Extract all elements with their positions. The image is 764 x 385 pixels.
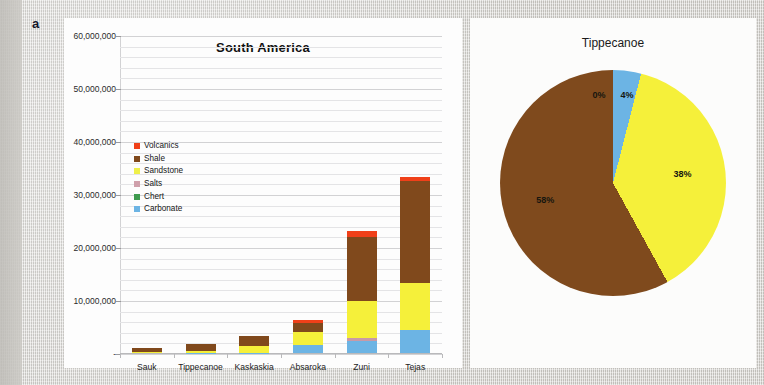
x-axis-tick-mark bbox=[335, 354, 336, 358]
gridline-major bbox=[120, 301, 442, 302]
bar-segment-carbonate bbox=[347, 341, 377, 353]
bar-segment-sandstone bbox=[239, 346, 269, 353]
bar-segment-carbonate bbox=[400, 330, 430, 353]
bar-segment-salts bbox=[347, 338, 377, 342]
gridline-minor bbox=[120, 343, 442, 344]
x-axis-tick-mark bbox=[388, 354, 389, 358]
bar-segment-sandstone bbox=[400, 283, 430, 331]
gridline-minor bbox=[120, 78, 442, 79]
bar-segment-volcanics bbox=[347, 231, 377, 237]
gridline-minor bbox=[120, 131, 442, 132]
legend-item-label: Sandstone bbox=[144, 167, 183, 175]
panel-a-bar-chart: South America -10,000,00020,000,00030,00… bbox=[64, 18, 462, 368]
legend-swatch-icon bbox=[134, 168, 140, 174]
bar-segment-shale bbox=[293, 323, 323, 331]
legend-item-volcanics[interactable]: Volcanics bbox=[134, 140, 183, 153]
gridline-minor bbox=[120, 290, 442, 291]
gridline-minor bbox=[120, 322, 442, 323]
bar-segment-sandstone bbox=[186, 351, 216, 353]
bar-segment-volcanics bbox=[400, 177, 430, 181]
bar-sauk bbox=[132, 348, 162, 353]
legend-item-label: Volcanics bbox=[144, 142, 179, 150]
legend-item-sandstone[interactable]: Sandstone bbox=[134, 165, 183, 178]
x-axis-label-sauk: Sauk bbox=[137, 362, 157, 372]
bar-kaskaskia bbox=[239, 336, 269, 353]
gridline-major bbox=[120, 36, 442, 37]
x-axis-tick-mark bbox=[281, 354, 282, 358]
y-axis-tick-mark bbox=[116, 195, 121, 196]
gridline-major bbox=[120, 248, 442, 249]
x-axis-label-kaskaskia: Kaskaskia bbox=[235, 362, 274, 372]
gridline-minor bbox=[120, 237, 442, 238]
y-axis-tick-mark bbox=[116, 248, 121, 249]
bar-segment-carbonate bbox=[293, 345, 323, 353]
bar-tippecanoe bbox=[186, 344, 216, 353]
legend-item-label: Carbonate bbox=[144, 205, 182, 213]
gridline-minor bbox=[120, 280, 442, 281]
legend-swatch-icon bbox=[134, 206, 140, 212]
y-axis-tick-label: 20,000,000 bbox=[0, 243, 116, 253]
x-axis-tick-mark bbox=[120, 354, 121, 358]
y-axis-tick-mark bbox=[116, 301, 121, 302]
gridline-minor bbox=[120, 333, 442, 334]
x-axis-label-absaroka: Absaroka bbox=[290, 362, 326, 372]
legend-item-label: Chert bbox=[144, 193, 164, 201]
y-axis-tick-mark bbox=[116, 142, 121, 143]
pie-chart-plot-area: 0%4%38%58% bbox=[500, 70, 726, 296]
y-axis-tick-label: - bbox=[0, 349, 116, 359]
legend-swatch-icon bbox=[134, 156, 140, 162]
legend-item-chert[interactable]: Chert bbox=[134, 190, 183, 203]
y-axis-tick-mark bbox=[116, 36, 121, 37]
bar-zuni bbox=[347, 231, 377, 353]
gridline-minor bbox=[120, 216, 442, 217]
y-axis-tick-label: 60,000,000 bbox=[0, 31, 116, 41]
x-axis-label-tejas: Tejas bbox=[405, 362, 425, 372]
bar-segment-sandstone bbox=[132, 352, 162, 353]
panel-b-pie-chart: Tippecanoe 0%4%38%58% bbox=[470, 18, 756, 368]
panel-a-label: a bbox=[32, 16, 39, 31]
bar-segment-shale bbox=[400, 181, 430, 283]
bar-chart-legend: VolcanicsShaleSandstoneSaltsChertCarbona… bbox=[134, 140, 183, 216]
y-axis-tick-label: 40,000,000 bbox=[0, 137, 116, 147]
bar-segment-shale bbox=[186, 344, 216, 351]
legend-swatch-icon bbox=[134, 181, 140, 187]
pie-slice-label-shale: 58% bbox=[536, 195, 554, 205]
pie-slice-label-volcanics: 0% bbox=[592, 90, 605, 100]
legend-item-salts[interactable]: Salts bbox=[134, 178, 183, 191]
bar-absaroka bbox=[293, 320, 323, 353]
pie-chart-title: Tippecanoe bbox=[470, 36, 756, 50]
gridline-minor bbox=[120, 121, 442, 122]
bar-segment-shale bbox=[132, 348, 162, 353]
gridline-minor bbox=[120, 68, 442, 69]
gridline-minor bbox=[120, 57, 442, 58]
bar-segment-shale bbox=[347, 237, 377, 301]
x-axis-label-tippecanoe: Tippecanoe bbox=[178, 362, 223, 372]
pie-slice-label-sandstone: 38% bbox=[673, 169, 691, 179]
gridline-minor bbox=[120, 259, 442, 260]
bar-segment-shale bbox=[239, 336, 269, 346]
legend-item-shale[interactable]: Shale bbox=[134, 153, 183, 166]
gridline-major bbox=[120, 89, 442, 90]
x-axis-tick-mark bbox=[442, 354, 443, 358]
bar-segment-sandstone bbox=[293, 332, 323, 345]
x-axis-tick-mark bbox=[227, 354, 228, 358]
y-axis-tick-label: 10,000,000 bbox=[0, 296, 116, 306]
legend-item-label: Shale bbox=[144, 155, 165, 163]
pie-slice-label-carbonate: 4% bbox=[620, 90, 633, 100]
y-axis-tick-label: 30,000,000 bbox=[0, 190, 116, 200]
legend-item-label: Salts bbox=[144, 180, 162, 188]
bar-tejas bbox=[400, 177, 430, 353]
gridline-minor bbox=[120, 312, 442, 313]
bar-segment-sandstone bbox=[347, 301, 377, 338]
gridline-minor bbox=[120, 227, 442, 228]
gridline-minor bbox=[120, 100, 442, 101]
x-axis-label-zuni: Zuni bbox=[353, 362, 370, 372]
y-axis-tick-mark bbox=[116, 89, 121, 90]
pie-circle bbox=[500, 70, 726, 296]
legend-swatch-icon bbox=[134, 194, 140, 200]
gridline-minor bbox=[120, 110, 442, 111]
bar-segment-volcanics bbox=[293, 320, 323, 324]
legend-item-carbonate[interactable]: Carbonate bbox=[134, 203, 183, 216]
y-axis-tick-label: 50,000,000 bbox=[0, 84, 116, 94]
gridline-minor bbox=[120, 47, 442, 48]
